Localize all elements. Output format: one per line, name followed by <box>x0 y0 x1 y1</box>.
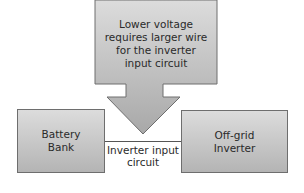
edge-label: Inverter input circuit <box>105 144 181 168</box>
battery-bank-node: Battery Bank <box>17 109 105 173</box>
battery-bank-label: Battery Bank <box>42 128 81 154</box>
off-grid-inverter-node: Off-grid Inverter <box>181 110 288 173</box>
connector-line <box>104 141 182 142</box>
callout-text: Lower voltage requires larger wire for t… <box>95 18 217 70</box>
off-grid-inverter-label: Off-grid Inverter <box>214 129 256 155</box>
